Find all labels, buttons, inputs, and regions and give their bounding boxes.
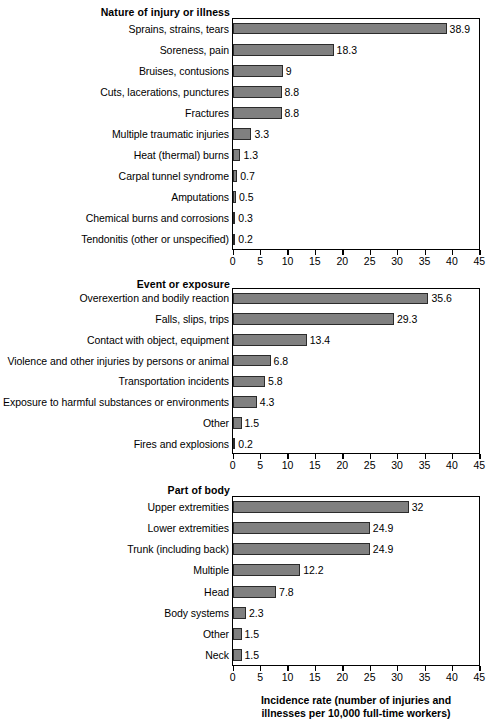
axis-tick-label: 30 bbox=[391, 671, 403, 683]
bar-row: 1.5 bbox=[233, 628, 498, 640]
axis-tick-label: 15 bbox=[309, 255, 321, 267]
bar-value-label: 9 bbox=[286, 65, 292, 77]
bar bbox=[233, 396, 257, 408]
bar-row: 38.9 bbox=[233, 23, 498, 35]
bar-value-label: 24.9 bbox=[373, 543, 393, 555]
bar-category-label: Multiple traumatic injuries bbox=[112, 128, 229, 140]
bar bbox=[233, 334, 306, 346]
bar-category-label: Exposure to harmful substances or enviro… bbox=[3, 396, 229, 408]
bar-category-label: Overexertion and bodily reaction bbox=[79, 292, 229, 304]
bar-row: 7.8 bbox=[233, 586, 498, 598]
bar bbox=[233, 212, 235, 224]
bar bbox=[233, 376, 265, 388]
bar-category-label: Bruises, contusions bbox=[139, 65, 229, 77]
x-axis-caption: Incidence rate (number of injuries and i… bbox=[232, 694, 480, 719]
bar-row: 24.9 bbox=[233, 543, 498, 555]
chart-title-part-of-body: Part of body bbox=[168, 484, 230, 496]
axis-tick-label: 5 bbox=[257, 255, 263, 267]
chart-panel-event-or-exposure: Event or exposure Overexertion and bodil… bbox=[0, 270, 498, 474]
bar bbox=[233, 293, 428, 305]
bar-value-label: 0.2 bbox=[238, 233, 253, 245]
chart-panel-nature-of-injury: Nature of injury or illness Sprains, str… bbox=[0, 0, 498, 268]
bar-value-label: 12.2 bbox=[303, 564, 323, 576]
bar-category-label: Chemical burns and corrosions bbox=[86, 212, 229, 224]
bar-category-label: Tendonitis (other or unspecified) bbox=[81, 233, 229, 245]
axis-tick-label: 20 bbox=[336, 255, 348, 267]
bar bbox=[233, 149, 240, 161]
bar-value-label: 5.8 bbox=[268, 375, 283, 387]
bar-row: 2.3 bbox=[233, 607, 498, 619]
bar-value-label: 18.3 bbox=[337, 44, 357, 56]
bar bbox=[233, 170, 237, 182]
bar-row: 1.5 bbox=[233, 649, 498, 661]
bar-category-label: Upper extremities bbox=[148, 501, 229, 513]
bar-row: 35.6 bbox=[233, 293, 498, 305]
bar-row: 5.8 bbox=[233, 376, 498, 388]
bar-category-label: Soreness, pain bbox=[160, 44, 229, 56]
x-axis-part-of-body: 051015202530354045 bbox=[232, 666, 480, 686]
axis-tick-label: 25 bbox=[364, 459, 376, 471]
bar bbox=[233, 128, 251, 140]
axis-tick-label: 15 bbox=[309, 671, 321, 683]
bar-value-label: 0.7 bbox=[240, 170, 255, 182]
bar-value-label: 1.5 bbox=[245, 417, 260, 429]
bar-row: 0.5 bbox=[233, 191, 498, 203]
bar-row: 8.8 bbox=[233, 107, 498, 119]
bar bbox=[233, 501, 408, 513]
bar-category-label: Cuts, lacerations, punctures bbox=[100, 86, 229, 98]
bar-value-label: 8.8 bbox=[285, 86, 300, 98]
bar bbox=[233, 586, 276, 598]
bar-value-label: 1.5 bbox=[245, 649, 260, 661]
bar-value-label: 13.4 bbox=[310, 334, 330, 346]
bar-value-label: 0.3 bbox=[238, 212, 253, 224]
bar-value-label: 2.3 bbox=[249, 607, 264, 619]
bar-value-label: 1.5 bbox=[245, 628, 260, 640]
axis-tick-label: 35 bbox=[419, 459, 431, 471]
axis-tick-label: 0 bbox=[230, 255, 236, 267]
x-axis-caption-line1: Incidence rate (number of injuries and bbox=[232, 694, 480, 707]
axis-tick-label: 15 bbox=[309, 459, 321, 471]
bar-value-label: 8.8 bbox=[285, 107, 300, 119]
bar-category-label: Head bbox=[204, 586, 229, 598]
bar-category-label: Violence and other injuries by persons o… bbox=[7, 355, 229, 367]
bar bbox=[233, 234, 235, 246]
axis-tick-label: 20 bbox=[336, 671, 348, 683]
bar-row: 0.2 bbox=[233, 234, 498, 246]
bar-category-label: Falls, slips, trips bbox=[155, 313, 229, 325]
bar bbox=[233, 649, 241, 661]
axis-tick-label: 0 bbox=[230, 459, 236, 471]
axis-tick-label: 30 bbox=[391, 255, 403, 267]
axis-tick-label: 10 bbox=[282, 459, 294, 471]
axis-tick-label: 45 bbox=[474, 671, 486, 683]
bar-row: 0.3 bbox=[233, 212, 498, 224]
bar-category-label: Other bbox=[203, 417, 229, 429]
bar bbox=[233, 543, 370, 555]
axis-tick-label: 45 bbox=[474, 459, 486, 471]
axis-tick-label: 10 bbox=[282, 255, 294, 267]
axis-tick-label: 40 bbox=[446, 459, 458, 471]
bar-category-label: Contact with object, equipment bbox=[87, 334, 229, 346]
bar-value-label: 32 bbox=[412, 501, 424, 513]
axis-tick-label: 25 bbox=[364, 255, 376, 267]
bar bbox=[233, 23, 446, 35]
bar-row: 4.3 bbox=[233, 396, 498, 408]
bar-row: 1.5 bbox=[233, 417, 498, 429]
bar-value-label: 29.3 bbox=[397, 313, 417, 325]
bar-category-label: Neck bbox=[205, 649, 229, 661]
axis-tick-label: 0 bbox=[230, 671, 236, 683]
bar-value-label: 7.8 bbox=[279, 586, 294, 598]
bar-value-label: 38.9 bbox=[450, 23, 470, 35]
bar-row: 24.9 bbox=[233, 522, 498, 534]
bar bbox=[233, 107, 281, 119]
bar-row: 18.3 bbox=[233, 44, 498, 56]
x-axis-caption-line2: illnesses per 10,000 full-time workers) bbox=[232, 707, 480, 719]
x-axis-event-or-exposure: 051015202530354045 bbox=[232, 454, 480, 474]
bar-category-label: Fractures bbox=[185, 107, 229, 119]
bar-category-label: Heat (thermal) burns bbox=[134, 149, 229, 161]
bar-row: 8.8 bbox=[233, 86, 498, 98]
axis-tick-label: 40 bbox=[446, 671, 458, 683]
bar bbox=[233, 564, 300, 576]
bar-row: 1.3 bbox=[233, 149, 498, 161]
bar bbox=[233, 607, 246, 619]
bar bbox=[233, 417, 241, 429]
